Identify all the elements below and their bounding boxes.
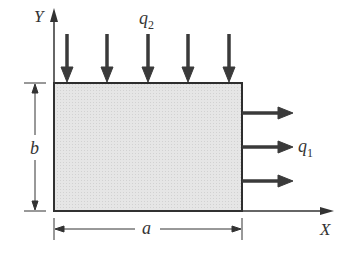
right-load-arrows — [242, 107, 293, 187]
q1-label: q1 — [298, 136, 313, 160]
top-load-arrows — [61, 34, 235, 82]
down-arrow-icon — [182, 34, 194, 82]
q2-label: q2 — [139, 8, 154, 32]
right-arrow-icon — [242, 141, 293, 153]
y-axis-label: Y — [34, 7, 45, 26]
plate-diagram: Y X q2 q1 b a — [0, 0, 355, 261]
plate — [54, 83, 242, 211]
right-arrow-icon — [242, 175, 293, 187]
down-arrow-icon — [142, 34, 154, 82]
right-arrow-icon — [242, 107, 293, 119]
down-arrow-icon — [223, 34, 235, 82]
down-arrow-icon — [61, 34, 73, 82]
b-label: b — [30, 138, 39, 158]
x-axis-label: X — [319, 220, 331, 239]
down-arrow-icon — [101, 34, 113, 82]
a-label: a — [142, 218, 151, 238]
